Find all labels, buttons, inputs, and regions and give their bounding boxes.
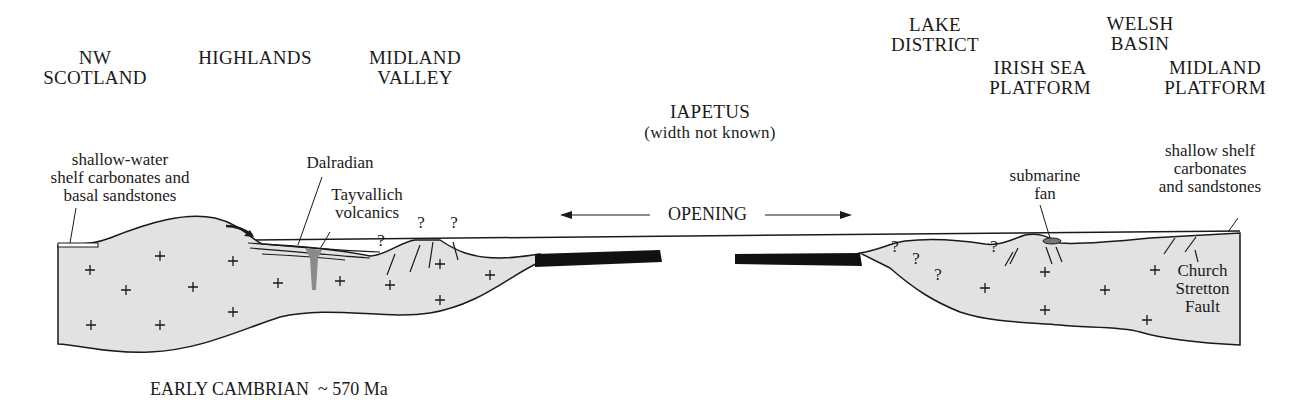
- annotation-dalradian: Dalradian: [300, 154, 380, 172]
- uncertain-marker: ?: [889, 238, 901, 256]
- figure-caption: EARLY CAMBRIAN ~ 570 Ma: [150, 380, 430, 399]
- region-iapetus: IAPETUS: [640, 102, 780, 122]
- left-shelf-carbonates: [58, 243, 98, 247]
- region-midland-platform: MIDLAND PLATFORM: [1150, 58, 1280, 98]
- annotation-shelf-left: shallow-water shelf carbonates and basal…: [20, 151, 220, 205]
- oceanic-crust-right: [735, 253, 862, 266]
- uncertain-marker: ?: [375, 232, 387, 250]
- annotation-tayvallich: Tayvallich volcanics: [322, 186, 412, 222]
- uncertain-marker: ?: [415, 214, 427, 232]
- oceanic-crust-left: [535, 250, 662, 267]
- region-irish-sea-platform: IRISH SEA PLATFORM: [975, 58, 1105, 98]
- annotation-church-stretton-fault: Church Stretton Fault: [1165, 262, 1240, 316]
- region-highlands: HIGHLANDS: [185, 48, 325, 68]
- arrow-right-icon: [840, 211, 852, 219]
- submarine-fan: [1043, 238, 1061, 244]
- annotation-shelf-right: shallow shelf carbonates and sandstones: [1135, 142, 1285, 196]
- uncertain-marker: ?: [988, 238, 1000, 256]
- iapetus-width-note: (width not known): [610, 124, 810, 142]
- region-welsh-basin: WELSH BASIN: [1090, 14, 1190, 54]
- laurentia-crust: [58, 216, 540, 352]
- region-lake-district: LAKE DISTRICT: [875, 15, 995, 55]
- uncertain-marker: ?: [910, 250, 922, 268]
- sea-level-line: [248, 231, 1240, 240]
- region-nw-scotland: NW SCOTLAND: [30, 48, 160, 88]
- region-midland-valley: MIDLAND VALLEY: [355, 48, 475, 88]
- annotation-submarine-fan: submarine fan: [1000, 167, 1090, 203]
- uncertain-marker: ?: [932, 266, 944, 284]
- arrow-left-icon: [560, 211, 572, 219]
- annotation-opening: OPENING: [650, 205, 765, 224]
- uncertain-marker: ?: [448, 214, 460, 232]
